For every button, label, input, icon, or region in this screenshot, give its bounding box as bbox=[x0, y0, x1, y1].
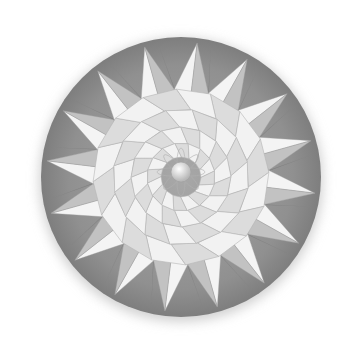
rosette-artwork bbox=[0, 0, 346, 348]
center-sphere bbox=[171, 162, 191, 182]
rosette-image: Geometric paper-fold rosette: a 16-point… bbox=[0, 0, 346, 348]
